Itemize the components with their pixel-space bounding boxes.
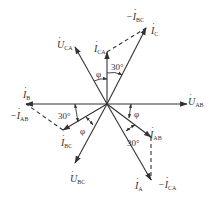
angle-arc-phi-top <box>94 79 107 81</box>
label-neg-I-BC: −I·BC <box>126 12 144 23</box>
angle-arc-phi-left <box>86 117 93 125</box>
angle-30-left: 30° <box>58 112 71 121</box>
label-neg-I-CA: −I·CA <box>158 180 176 191</box>
label-U-CA: U·CA <box>57 40 73 51</box>
label-I-CA: I·CA <box>94 44 106 55</box>
angle-phi-top: φ <box>96 70 101 79</box>
label-I-A: I·A <box>135 181 143 192</box>
angle-arc-30-top <box>107 72 122 75</box>
label-I-B: I·B <box>23 90 30 101</box>
label-U-BC: U·BC <box>70 174 85 185</box>
label-I-C: I·C <box>151 26 158 37</box>
angle-phi-right: φ <box>134 110 139 119</box>
angle-arc-30-left <box>75 104 78 122</box>
label-I-BC: I·BC <box>61 138 72 149</box>
phasor-diagram <box>0 0 217 202</box>
angle-phi-left: φ <box>80 127 85 136</box>
angle-30-bottom: 30° <box>127 139 140 148</box>
label-neg-I-AB: −I·AB <box>10 111 28 122</box>
label-I-AB: I·AB <box>150 130 162 141</box>
angle-arc-phi-right <box>129 104 131 118</box>
phasor-U-CA <box>75 47 107 104</box>
angle-arc-30-bottom <box>126 125 135 131</box>
angle-30-top: 30° <box>111 63 124 72</box>
label-U-AB: U·AB <box>188 97 204 108</box>
phasor-I-AB <box>107 104 151 137</box>
